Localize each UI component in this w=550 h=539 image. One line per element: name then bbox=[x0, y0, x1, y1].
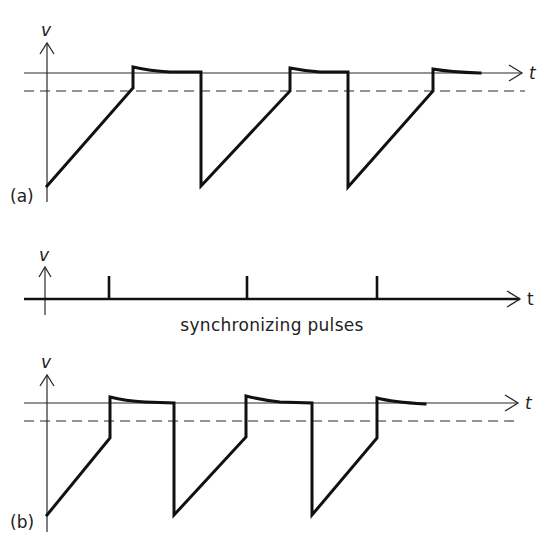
sawtooth-sync-diagram: v t (a) v t synchronizing pulses v t (b) bbox=[0, 0, 550, 539]
panel-a-label: (a) bbox=[10, 186, 34, 206]
pulses-v-label: v bbox=[39, 245, 50, 265]
panel-a-sawtooth-waveform bbox=[47, 67, 480, 187]
sync-pulses-panel: v t synchronizing pulses bbox=[24, 245, 534, 335]
panel-b: v t (b) bbox=[10, 352, 533, 532]
panel-b-label: (b) bbox=[10, 512, 34, 532]
panel-b-synchronized-sawtooth-waveform bbox=[47, 396, 425, 515]
panel-a-t-label: t bbox=[529, 63, 537, 83]
panel-a: v t (a) bbox=[10, 20, 537, 206]
panel-a-v-label: v bbox=[41, 20, 52, 40]
panel-b-t-label: t bbox=[525, 393, 533, 413]
panel-b-v-label: v bbox=[41, 352, 52, 372]
pulses-t-label: t bbox=[527, 289, 534, 309]
pulses-caption: synchronizing pulses bbox=[180, 315, 363, 335]
